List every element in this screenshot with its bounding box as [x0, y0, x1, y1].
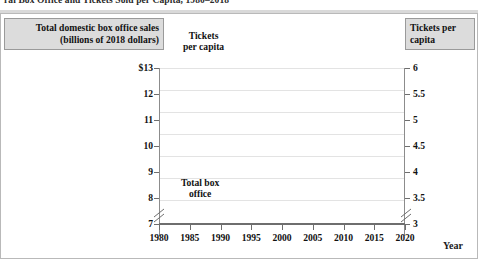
x-axis-tick	[374, 225, 375, 230]
x-axis-label: 1985	[176, 232, 204, 243]
x-axis-tick	[313, 225, 314, 230]
x-axis-label: 1990	[207, 232, 235, 243]
y-axis-tick-left	[154, 146, 159, 147]
annotation-tickets-line1: Tickets	[189, 30, 219, 41]
gridline	[159, 68, 405, 69]
annotation-tickets-line2: per capita	[183, 41, 224, 52]
x-axis-tick	[221, 225, 222, 230]
gridline	[159, 200, 405, 201]
y-axis-label-right: 5.5	[413, 88, 443, 99]
x-axis-label: 2010	[330, 232, 358, 243]
x-axis-tick	[159, 225, 160, 230]
y-axis-label-left: 7	[111, 218, 153, 229]
x-axis-tick	[282, 225, 283, 230]
y-axis-label-right: 3	[413, 218, 443, 229]
right-axis-header-line1: Tickets per	[410, 22, 470, 34]
y-axis-tick-right	[405, 198, 410, 199]
x-axis-tick	[251, 225, 252, 230]
y-axis-label-left: 8	[111, 192, 153, 203]
y-axis-label-left: 11	[111, 114, 153, 125]
y-axis-tick-left	[154, 68, 159, 69]
x-axis-tick	[190, 225, 191, 230]
x-axis-title: Year	[443, 240, 463, 251]
y-axis-tick-right	[405, 68, 410, 69]
annotation-boxoffice-line2: office	[189, 188, 211, 199]
x-axis-tick	[405, 225, 406, 230]
y-axis-label-right: 4	[413, 166, 443, 177]
annotation-tickets-per-capita: Tickets per capita	[183, 30, 224, 52]
annotation-total-box-office: Total box office	[181, 177, 219, 199]
y-axis-label-right: 4.5	[413, 140, 443, 151]
right-axis-header: Tickets per capita	[405, 18, 475, 50]
y-axis-tick-left	[154, 94, 159, 95]
y-axis-tick-right	[405, 94, 410, 95]
y-axis-label-left: 9	[111, 166, 153, 177]
annotation-boxoffice-line1: Total box	[181, 177, 219, 188]
left-axis-header-line1: Total domestic box office sales	[9, 22, 159, 34]
y-axis-tick-left	[154, 198, 159, 199]
gridline	[159, 90, 405, 91]
y-axis-tick-left	[154, 120, 159, 121]
y-axis-label-left: 12	[111, 88, 153, 99]
y-axis-tick-right	[405, 172, 410, 173]
x-axis-label: 1995	[237, 232, 265, 243]
x-axis-label: 2020	[391, 232, 419, 243]
y-axis-label-right: 6	[413, 62, 443, 73]
right-axis-break-icon	[399, 206, 413, 224]
y-axis-label-right: 5	[413, 114, 443, 125]
y-axis-tick-right	[405, 146, 410, 147]
x-axis-label: 2015	[360, 232, 388, 243]
chart-figure: Total domestic box office sales (billion…	[0, 13, 478, 259]
y-axis-label-left: 10	[111, 140, 153, 151]
x-axis-label: 2005	[299, 232, 327, 243]
y-axis-tick-left	[154, 172, 159, 173]
y-axis-label-right: 3.5	[413, 192, 443, 203]
left-axis-header-line2: (billions of 2018 dollars)	[9, 34, 159, 46]
gridline	[159, 112, 405, 113]
gridline	[159, 156, 405, 157]
right-axis-header-line2: capita	[410, 34, 470, 46]
left-axis-header: Total domestic box office sales (billion…	[4, 18, 164, 50]
left-axis-break-icon	[152, 206, 166, 224]
x-axis-tick	[344, 225, 345, 230]
plot-area	[159, 68, 405, 224]
y-axis-label-left: $13	[111, 62, 153, 73]
y-axis-tick-right	[405, 120, 410, 121]
gridline	[159, 134, 405, 135]
x-axis-label: 2000	[268, 232, 296, 243]
x-axis-label: 1980	[145, 232, 173, 243]
